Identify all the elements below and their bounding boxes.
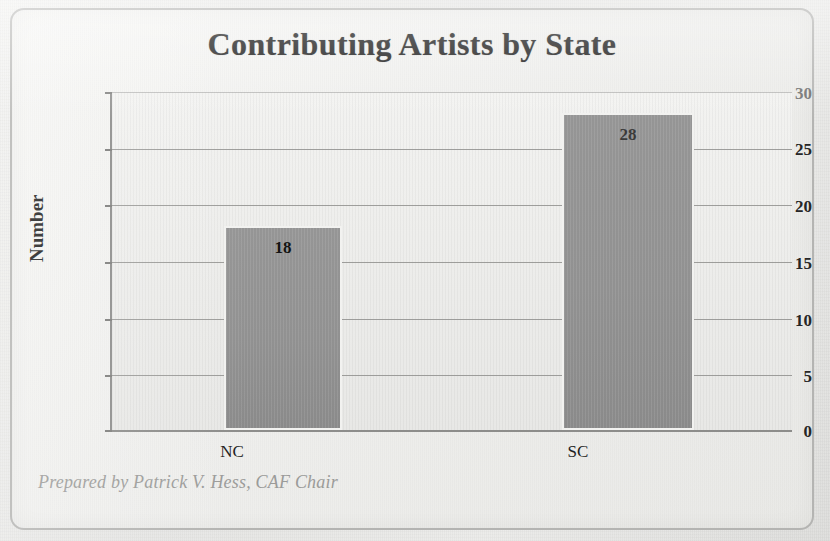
bar-value-nc: 18 xyxy=(226,238,340,258)
bar-value-sc: 28 xyxy=(564,125,692,145)
x-tick-label-nc: NC xyxy=(172,442,292,462)
y-tick-mark-5 xyxy=(105,375,112,377)
y-tick-mark-15 xyxy=(105,262,112,264)
scanned-chart-page: Contributing Artists by State Number 30 … xyxy=(0,0,830,541)
bar-sc: 28 xyxy=(562,113,694,430)
chart-title: Contributing Artists by State xyxy=(12,26,812,63)
y-tick-mark-30 xyxy=(105,92,112,94)
y-axis-title: Number xyxy=(26,194,48,262)
y-tick-mark-10 xyxy=(105,319,112,321)
footer-attribution: Prepared by Patrick V. Hess, CAF Chair xyxy=(38,472,338,493)
plot-area: 18 28 xyxy=(110,92,792,432)
y-tick-mark-0 xyxy=(105,430,112,432)
gridline-30 xyxy=(112,92,792,93)
x-tick-label-sc: SC xyxy=(508,442,648,462)
bar-nc: 18 xyxy=(224,226,342,430)
chart-card: Contributing Artists by State Number 30 … xyxy=(10,8,814,530)
y-tick-mark-20 xyxy=(105,205,112,207)
y-tick-mark-25 xyxy=(105,149,112,151)
